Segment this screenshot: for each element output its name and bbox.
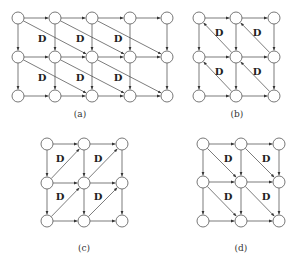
- graph-node: [41, 215, 53, 227]
- delay-label: D: [76, 72, 85, 83]
- delay-label: D: [56, 153, 65, 164]
- graph-node: [116, 138, 128, 150]
- diagonal-delay-edge: [88, 149, 117, 179]
- delay-label: D: [224, 191, 233, 202]
- graph-node: [78, 215, 90, 227]
- graph-node: [116, 215, 128, 227]
- panel-a: DDDDDD(a): [12, 12, 173, 119]
- delay-label: D: [253, 27, 262, 38]
- graph-node: [124, 12, 136, 24]
- graph-node: [197, 138, 209, 150]
- diagonal-delay-edge: [97, 60, 161, 93]
- graph-node: [41, 138, 53, 150]
- delay-label: D: [262, 153, 271, 164]
- delay-graph-figure: DDDDDD(a)DDDD(b)DDDD(c)DDDD(d): [0, 0, 297, 269]
- graph-node: [268, 12, 280, 24]
- graph-node: [86, 51, 98, 63]
- graph-node: [116, 177, 128, 189]
- delay-label: D: [114, 33, 123, 44]
- graph-node: [197, 176, 209, 188]
- graph-node: [273, 215, 285, 227]
- graph-node: [41, 177, 53, 189]
- graph-node: [86, 90, 98, 102]
- panel-caption-d: (d): [235, 243, 248, 253]
- graph-node: [161, 51, 173, 63]
- panel-caption-c: (c): [78, 243, 90, 253]
- graph-node: [78, 177, 90, 189]
- graph-node: [273, 176, 285, 188]
- graph-node: [235, 176, 247, 188]
- delay-label: D: [215, 27, 224, 38]
- graph-node: [12, 12, 24, 24]
- graph-node: [193, 51, 205, 63]
- graph-node: [230, 51, 242, 63]
- graph-node: [161, 90, 173, 102]
- delay-label: D: [56, 191, 65, 202]
- graph-node: [230, 12, 242, 24]
- graph-node: [78, 138, 90, 150]
- graph-node: [49, 90, 61, 102]
- diagonal-delay-edge: [88, 188, 117, 217]
- panel-caption-b: (b): [231, 109, 244, 119]
- graph-node: [86, 12, 98, 24]
- graph-node: [197, 215, 209, 227]
- panel-b: DDDD(b): [193, 12, 280, 119]
- delay-label: D: [94, 153, 103, 164]
- graph-node: [49, 12, 61, 24]
- delay-label: D: [262, 191, 271, 202]
- delay-label: D: [76, 33, 85, 44]
- panel-caption-a: (a): [74, 109, 86, 119]
- graph-node: [230, 90, 242, 102]
- delay-label: D: [38, 72, 47, 83]
- graph-node: [268, 90, 280, 102]
- graph-node: [235, 215, 247, 227]
- graph-node: [124, 51, 136, 63]
- delay-label: D: [253, 66, 262, 77]
- diagonal-delay-edge: [97, 21, 161, 54]
- graph-node: [235, 138, 247, 150]
- panel-d: DDDD(d): [197, 138, 285, 253]
- graph-node: [12, 51, 24, 63]
- delay-label: D: [114, 72, 123, 83]
- delay-label: D: [38, 33, 47, 44]
- graph-node: [49, 51, 61, 63]
- delay-label: D: [215, 66, 224, 77]
- delay-label: D: [224, 153, 233, 164]
- graph-node: [268, 51, 280, 63]
- graph-node: [273, 138, 285, 150]
- panel-c: DDDD(c): [41, 138, 128, 253]
- graph-node: [161, 12, 173, 24]
- graph-node: [12, 90, 24, 102]
- graph-node: [124, 90, 136, 102]
- graph-node: [193, 90, 205, 102]
- graph-node: [193, 12, 205, 24]
- delay-label: D: [94, 191, 103, 202]
